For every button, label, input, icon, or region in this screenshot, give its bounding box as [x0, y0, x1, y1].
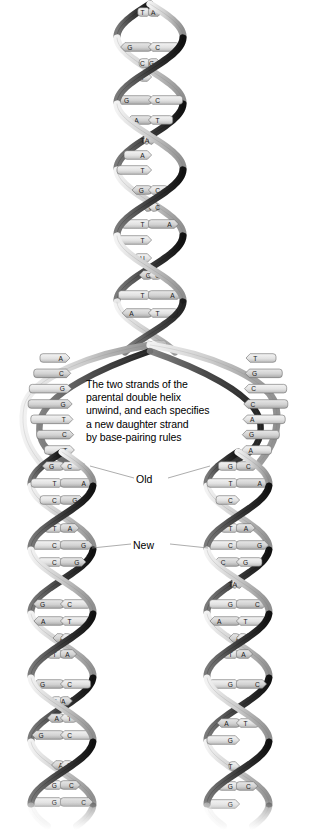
svg-text:C: C [155, 44, 160, 51]
bottom-fade [0, 800, 316, 830]
svg-text:C: C [228, 542, 233, 549]
svg-text:C: C [255, 681, 260, 688]
svg-text:T: T [253, 355, 257, 362]
label-old: Old [136, 473, 152, 485]
svg-text:T: T [140, 221, 144, 228]
svg-text:T: T [140, 292, 144, 299]
svg-text:T: T [140, 167, 144, 174]
svg-text:C: C [52, 559, 57, 566]
svg-text:G: G [39, 732, 44, 739]
dna-replication-figure: TAGCCGTGCATTAATGCGCTATUGCTAATGC ACGGTCTT… [0, 0, 316, 830]
svg-text:A: A [59, 355, 64, 362]
svg-text:C: C [67, 681, 72, 688]
svg-text:G: G [49, 463, 54, 470]
svg-text:T: T [140, 9, 144, 16]
svg-text:A: A [250, 416, 255, 423]
svg-text:C: C [251, 401, 256, 408]
svg-text:T: T [140, 237, 144, 244]
svg-text:C: C [52, 542, 57, 549]
svg-text:A: A [61, 698, 66, 705]
svg-text:G: G [228, 681, 233, 688]
svg-text:G: G [60, 385, 65, 392]
svg-text:G: G [127, 44, 132, 51]
svg-text:C: C [228, 497, 233, 504]
svg-text:A: A [258, 480, 263, 487]
svg-text:C: C [52, 497, 57, 504]
svg-text:T: T [156, 117, 160, 124]
svg-text:C: C [67, 463, 72, 470]
svg-text:A: A [54, 715, 59, 722]
daughter-helix-left: GCTACGTACGCGGCATATTAGCTAATGCATGCGC [31, 452, 93, 826]
svg-text:C: C [67, 732, 72, 739]
svg-text:C: C [62, 431, 67, 438]
svg-text:T: T [52, 480, 56, 487]
svg-text:T: T [228, 763, 232, 770]
daughter-helix-right: GCTACTACGCGTAGCATATTAGCATGTGCG [207, 452, 269, 826]
svg-text:T: T [228, 480, 232, 487]
svg-text:C: C [255, 601, 260, 608]
svg-text:A: A [129, 310, 134, 317]
svg-text:G: G [228, 783, 233, 790]
svg-text:A: A [41, 618, 46, 625]
svg-text:C: C [246, 783, 251, 790]
figure-caption: The two strands of the parental double h… [86, 378, 216, 444]
svg-text:C: C [155, 204, 160, 211]
svg-text:T: T [244, 720, 248, 727]
svg-text:A: A [244, 525, 249, 532]
svg-text:G: G [139, 187, 144, 194]
svg-text:C: C [140, 60, 145, 67]
svg-text:G: G [81, 542, 86, 549]
svg-text:G: G [52, 782, 57, 789]
svg-text:A: A [241, 651, 246, 658]
svg-text:A: A [167, 221, 172, 228]
svg-text:G: G [257, 542, 262, 549]
svg-text:G: G [40, 681, 45, 688]
svg-text:C: C [67, 601, 72, 608]
svg-text:G: G [74, 559, 79, 566]
svg-text:C: C [69, 782, 74, 789]
svg-text:G: G [252, 370, 257, 377]
svg-text:G: G [124, 97, 129, 104]
svg-text:A: A [140, 152, 145, 159]
svg-text:C: C [59, 370, 64, 377]
svg-text:T: T [140, 137, 144, 144]
svg-text:T: T [244, 618, 248, 625]
svg-text:T: T [68, 618, 72, 625]
parental-double-helix: TAGCCGTGCATTAATGCGCTATUGCTAATGC [117, 4, 183, 352]
svg-text:A: A [224, 720, 229, 727]
svg-text:A: A [68, 525, 73, 532]
svg-text:G: G [228, 463, 233, 470]
svg-text:G: G [228, 737, 233, 744]
svg-text:A: A [82, 480, 87, 487]
svg-text:A: A [217, 618, 222, 625]
svg-text:T: T [156, 310, 160, 317]
svg-text:A: A [65, 651, 70, 658]
svg-text:T: T [62, 416, 66, 423]
svg-text:A: A [249, 447, 254, 454]
svg-text:A: A [170, 292, 175, 299]
svg-text:G: G [228, 601, 233, 608]
svg-text:C: C [155, 97, 160, 104]
svg-text:G: G [249, 431, 254, 438]
label-new: New [133, 539, 154, 551]
svg-text:G: G [243, 559, 248, 566]
svg-text:C: C [251, 385, 256, 392]
svg-text:G: G [60, 401, 65, 408]
svg-text:G: G [40, 601, 45, 608]
